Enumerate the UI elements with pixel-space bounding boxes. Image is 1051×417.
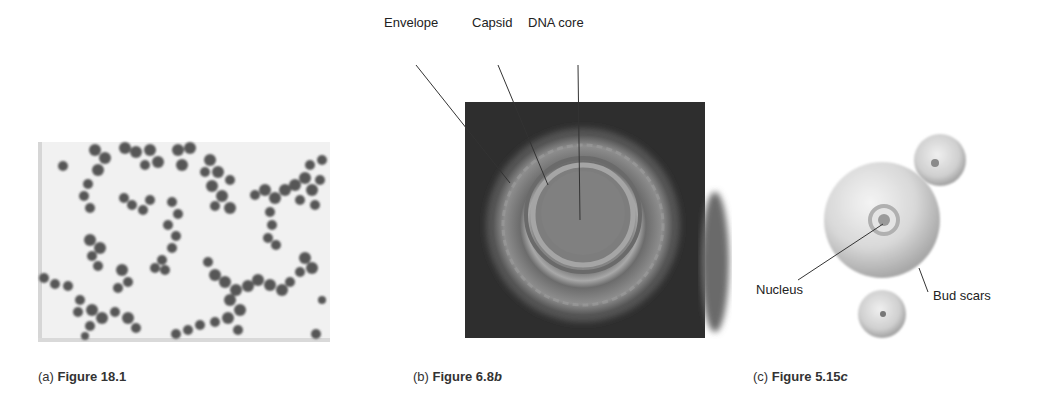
label-envelope: Envelope <box>384 15 438 30</box>
caption-figure-ref: Figure 6.8 <box>433 369 494 384</box>
caption-figure-suffix: c <box>840 369 847 384</box>
micrograph-cocci-clusters <box>38 142 330 342</box>
caption-letter: (b) <box>413 369 429 384</box>
label-bud-scars: Bud scars <box>933 288 991 303</box>
caption-b: (b) Figure 6.8b <box>413 369 502 384</box>
micrograph-virus-particle <box>465 102 729 338</box>
illustration-budding-yeast <box>824 134 966 338</box>
label-capsid: Capsid <box>472 15 512 30</box>
figure-graphics <box>0 0 1051 417</box>
caption-letter: (a) <box>38 369 54 384</box>
caption-a: (a) Figure 18.1 <box>38 369 126 384</box>
label-nucleus: Nucleus <box>756 282 803 297</box>
caption-figure-ref: Figure 5.15 <box>772 369 841 384</box>
caption-figure-ref: Figure 18.1 <box>58 369 127 384</box>
caption-letter: (c) <box>753 369 768 384</box>
label-dna-core: DNA core <box>528 15 584 30</box>
caption-figure-suffix: b <box>494 369 502 384</box>
caption-c: (c) Figure 5.15c <box>753 369 848 384</box>
